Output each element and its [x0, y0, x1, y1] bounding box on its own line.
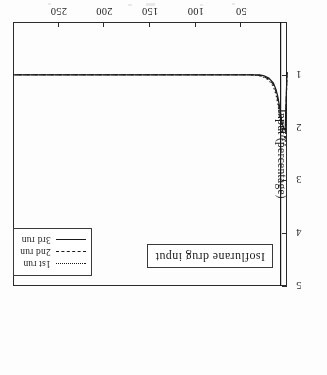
scanned-figure-page: 50 100 150 200 250 1 2 3 4 5 Time (min) … [0, 0, 327, 375]
x-tick-label: 100 [188, 6, 204, 17]
legend-label: 3rd run [22, 235, 51, 245]
legend-item-3rd-run: 3rd run [20, 234, 86, 246]
legend-line-solid-icon [56, 240, 86, 241]
chart-legend: 1st run 2nd run 3rd run [13, 228, 92, 276]
chart-figure: 50 100 150 200 250 1 2 3 4 5 Time (min) … [13, 22, 287, 286]
legend-item-1st-run: 1st run [20, 258, 86, 270]
y-tick-label: 2 [296, 122, 301, 133]
legend-line-dashed-icon [56, 252, 86, 253]
legend-line-dotted-icon [56, 264, 86, 265]
y-tick-mark [282, 286, 287, 287]
y-tick-label: 5 [296, 281, 301, 292]
annotation-box: Isoflurane drug input [147, 244, 273, 268]
legend-item-2nd-run: 2nd run [20, 246, 86, 258]
annotation-label: Isoflurane drug input [155, 250, 265, 264]
y-tick-label: 4 [296, 228, 301, 239]
series-line-2nd-run [13, 72, 287, 138]
rotated-figure-container: 50 100 150 200 250 1 2 3 4 5 Time (min) … [0, 0, 327, 375]
x-tick-label: 150 [142, 6, 158, 17]
x-tick-label: 250 [51, 6, 67, 17]
y-tick-label: 1 [296, 69, 301, 80]
series-line-1st-run [13, 72, 287, 146]
x-tick-label: 50 [236, 6, 247, 17]
series-line-3rd-run [13, 72, 287, 130]
legend-label: 2nd run [20, 247, 51, 257]
legend-label: 1st run [23, 259, 51, 269]
x-tick-label: 200 [96, 6, 112, 17]
y-tick-label: 3 [296, 175, 301, 186]
